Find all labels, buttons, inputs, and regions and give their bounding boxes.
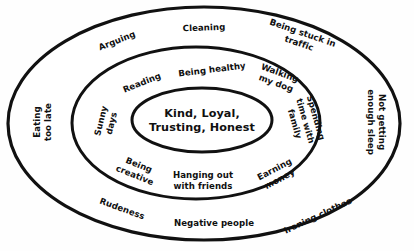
core-ring-group: Kind, Loyal, Trusting, Honest — [149, 107, 256, 134]
core-values-line-2: Trusting, Honest — [149, 121, 256, 134]
label-not-getting-enough-sleep: Not getting enough sleep — [366, 89, 387, 155]
label-hanging-out-with-friends: Hanging out with friends — [173, 170, 233, 191]
hanging-out-with-friends-line-2: with friends — [174, 181, 233, 191]
label-core-values: Kind, Loyal, Trusting, Honest — [149, 107, 256, 134]
label-negative-people: Negative people — [174, 218, 254, 228]
eating-too-late-line-2: too late — [43, 103, 53, 141]
eating-too-late-line-1: Eating — [32, 106, 42, 137]
negative-people-line-1: Negative people — [174, 218, 254, 228]
hanging-out-with-friends-line-1: Hanging out — [173, 170, 233, 180]
label-cleaning: Cleaning — [183, 22, 226, 33]
not-getting-enough-sleep-line-1: Not getting — [377, 94, 387, 150]
core-values-line-1: Kind, Loyal, — [164, 107, 240, 120]
not-getting-enough-sleep-line-2: enough sleep — [366, 89, 376, 155]
core-ring-ellipse — [132, 88, 272, 152]
cleaning-line-1: Cleaning — [183, 22, 226, 33]
concentric-ellipse-diagram: Kind, Loyal, Trusting, Honest Reading Be… — [0, 0, 414, 251]
label-eating-too-late: Eating too late — [32, 103, 53, 141]
